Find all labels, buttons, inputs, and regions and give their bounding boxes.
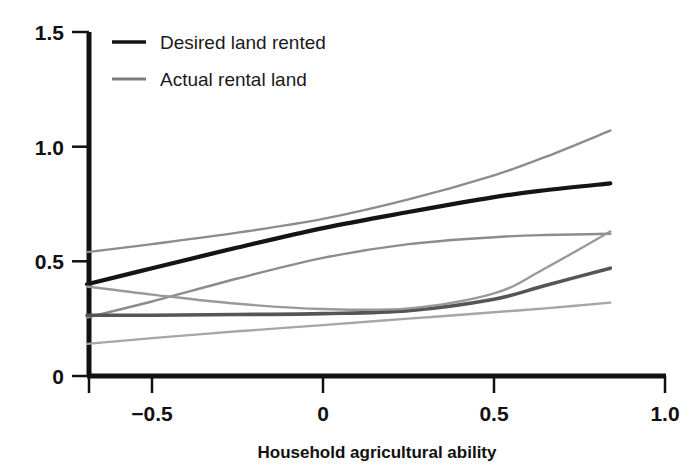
- x-tick-label--0.5: −0.5: [131, 402, 173, 425]
- y-tick-label-0: 0: [52, 365, 64, 388]
- x-tick-label-0.5: 0.5: [479, 402, 509, 425]
- y-tick-label-0.5: 0.5: [35, 250, 65, 273]
- x-tick-label-1.0: 1.0: [650, 402, 679, 425]
- chart-svg: 0 0.5 1.0 1.5 −0.5 0 0.5 1.0 Household a…: [0, 0, 699, 476]
- legend-label-desired: Desired land rented: [160, 32, 326, 53]
- y-tick-label-1.0: 1.0: [35, 136, 64, 159]
- chart-background: [0, 0, 699, 476]
- x-axis-title: Household agricultural ability: [258, 443, 498, 462]
- x-tick-label-0: 0: [317, 402, 329, 425]
- legend-label-actual: Actual rental land: [160, 69, 307, 90]
- y-tick-label-1.5: 1.5: [35, 21, 65, 44]
- chart-container: 0 0.5 1.0 1.5 −0.5 0 0.5 1.0 Household a…: [0, 0, 699, 476]
